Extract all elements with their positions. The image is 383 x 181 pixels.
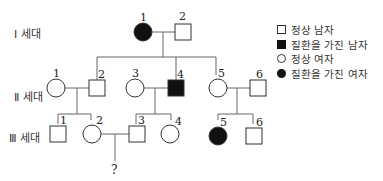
legend-label: 정상 여자	[291, 51, 334, 66]
label-III-5: 5	[220, 116, 227, 129]
legend-item-affected-male: 질환을 가진 남자	[277, 38, 368, 51]
label-I-1: 1	[140, 11, 147, 24]
legend-item-normal-male: 정상 남자	[277, 23, 368, 36]
label-III-1: 1	[60, 114, 67, 127]
legend-label: 질환을 가진 남자	[291, 37, 368, 52]
circle-open-icon	[277, 54, 286, 63]
individual-II-5-female	[209, 79, 227, 97]
individual-II-3-female	[126, 79, 144, 97]
individual-III-2-female	[83, 125, 101, 143]
square-filled-icon	[277, 40, 286, 49]
individual-III-6-male	[246, 128, 262, 144]
individual-II-1-female	[47, 79, 65, 97]
label-II-3: 3	[132, 67, 139, 80]
circle-filled-icon	[277, 69, 286, 78]
label-II-4: 4	[177, 68, 184, 81]
label-III-3: 3	[138, 114, 145, 127]
unknown-child-question-mark: ?	[111, 163, 117, 177]
label-III-6: 6	[256, 116, 263, 129]
individual-III-5-affected-female	[209, 127, 227, 145]
label-II-1: 1	[53, 67, 60, 80]
individual-I-2-male	[175, 24, 191, 40]
legend-item-normal-female: 정상 여자	[277, 52, 368, 65]
individual-I-1-affected-female	[134, 23, 152, 41]
individual-II-2-male	[89, 80, 105, 96]
label-II-5: 5	[218, 67, 225, 80]
label-III-4: 4	[175, 115, 182, 128]
legend: 정상 남자 질환을 가진 남자 정상 여자 질환을 가진 여자	[277, 23, 368, 81]
legend-label: 질환을 가진 여자	[291, 66, 368, 81]
individual-III-1-male	[50, 126, 66, 142]
legend-item-affected-female: 질환을 가진 여자	[277, 67, 368, 80]
label-II-2: 2	[98, 68, 105, 81]
legend-label: 정상 남자	[291, 22, 334, 37]
individual-II-4-affected-male	[168, 80, 184, 96]
label-I-2: 2	[179, 10, 186, 23]
label-III-2: 2	[96, 114, 103, 127]
individual-numbers: 1 2 1 2 3 4 5 6 1 2 3 4 5 6 ?	[53, 10, 263, 177]
individual-II-6-male	[250, 80, 266, 96]
square-open-icon	[277, 25, 286, 34]
label-II-6: 6	[256, 68, 263, 81]
individual-III-3-male	[129, 126, 145, 142]
